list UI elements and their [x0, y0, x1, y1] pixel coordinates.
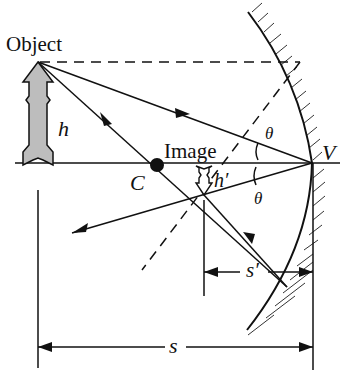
h-prime-label: h′	[214, 170, 228, 190]
image-label: Image	[164, 141, 216, 162]
theta-top-arc	[256, 143, 258, 160]
arrowhead-icon	[299, 342, 313, 352]
theta-bottom-arc	[254, 167, 256, 185]
theta-bottom-label: θ	[254, 190, 262, 207]
s-prime-label: s′	[246, 260, 259, 281]
object-label: Object	[6, 34, 62, 55]
ray-arrow-icon	[243, 232, 255, 244]
mirror-diagram: Object h Image h′ C V θ θ s′ s	[0, 0, 358, 382]
s-label: s	[169, 335, 178, 357]
center-of-curvature-dot	[150, 158, 164, 172]
ray-through-center	[38, 62, 287, 287]
diagram-canvas	[0, 0, 358, 382]
reflected-ray-from-vertex	[72, 163, 312, 233]
center-label: C	[130, 172, 145, 194]
h-label: h	[58, 118, 69, 140]
dashed-focal-line	[142, 62, 300, 270]
ray-arrow-icon	[72, 223, 88, 233]
image-arrow	[196, 166, 212, 195]
concave-mirror	[247, 12, 312, 330]
theta-top-label: θ	[265, 125, 273, 142]
arrowhead-icon	[204, 267, 218, 277]
arrowhead-icon	[38, 342, 52, 352]
object-arrow	[23, 62, 53, 165]
vertex-label: V	[322, 142, 335, 164]
